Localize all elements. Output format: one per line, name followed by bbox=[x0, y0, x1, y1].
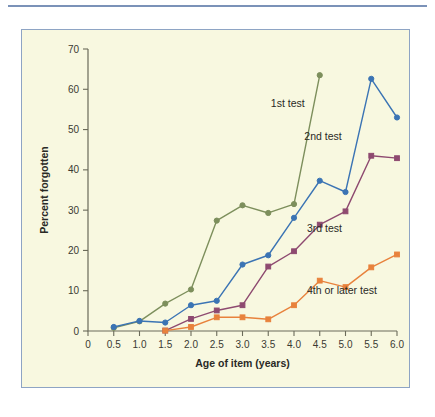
data-point-marker bbox=[214, 218, 219, 223]
data-point-marker bbox=[291, 215, 296, 220]
data-point-marker bbox=[291, 202, 296, 207]
data-point-marker bbox=[240, 315, 245, 320]
x-tick-label: 4.0 bbox=[287, 339, 301, 350]
data-point-marker bbox=[266, 253, 271, 258]
y-axis-title: Percent forgotten bbox=[38, 146, 50, 234]
y-tick-label: 30 bbox=[68, 205, 80, 216]
figure-root: 010203040506070 00.51.01.52.02.53.03.54.… bbox=[0, 0, 435, 417]
data-point-marker bbox=[214, 315, 219, 320]
y-tick-label: 0 bbox=[73, 326, 79, 337]
data-point-marker bbox=[343, 209, 348, 214]
data-point-marker bbox=[395, 252, 400, 257]
x-tick-label: 0 bbox=[85, 339, 91, 350]
x-tick-label: 3.5 bbox=[261, 339, 275, 350]
x-axis-title: Age of item (years) bbox=[195, 357, 290, 369]
data-point-marker bbox=[266, 210, 271, 215]
data-point-marker bbox=[188, 287, 193, 292]
y-tick-label: 40 bbox=[68, 164, 80, 175]
x-tick-label: 1.0 bbox=[133, 339, 147, 350]
data-point-marker bbox=[317, 73, 322, 78]
x-tick-label: 5.5 bbox=[364, 339, 378, 350]
data-point-marker bbox=[369, 153, 374, 158]
data-point-marker bbox=[317, 278, 322, 283]
data-point-marker bbox=[214, 308, 219, 313]
x-tick-label: 6.0 bbox=[390, 339, 404, 350]
x-tick-label: 3.0 bbox=[236, 339, 250, 350]
data-point-marker bbox=[292, 303, 297, 308]
data-point-marker bbox=[395, 156, 400, 161]
x-tick-label: 2.0 bbox=[184, 339, 198, 350]
data-point-marker bbox=[317, 178, 322, 183]
y-tick-label: 50 bbox=[68, 124, 80, 135]
y-tick-label: 20 bbox=[68, 245, 80, 256]
data-point-marker bbox=[266, 264, 271, 269]
y-tick-label: 10 bbox=[68, 285, 80, 296]
y-axis-ticks: 010203040506070 bbox=[68, 44, 88, 337]
series-line bbox=[114, 75, 320, 328]
x-tick-label: 2.5 bbox=[210, 339, 224, 350]
data-point-marker bbox=[111, 324, 116, 329]
data-point-marker bbox=[240, 203, 245, 208]
data-point-marker bbox=[343, 189, 348, 194]
data-point-marker bbox=[189, 325, 194, 330]
x-tick-label: 4.5 bbox=[313, 339, 327, 350]
data-point-marker bbox=[266, 317, 271, 322]
line-chart: 010203040506070 00.51.01.52.02.53.03.54.… bbox=[22, 30, 411, 389]
data-point-marker bbox=[188, 303, 193, 308]
series-label: 2nd test bbox=[304, 130, 341, 142]
top-divider-rule bbox=[8, 5, 427, 7]
x-tick-label: 1.5 bbox=[158, 339, 172, 350]
data-point-marker bbox=[163, 328, 168, 333]
y-tick-label: 60 bbox=[68, 84, 80, 95]
y-tick-label: 70 bbox=[68, 44, 80, 55]
data-point-marker bbox=[240, 262, 245, 267]
chart-panel: 010203040506070 00.51.01.52.02.53.03.54.… bbox=[21, 29, 410, 388]
series-label: 1st test bbox=[271, 97, 305, 109]
data-point-marker bbox=[240, 303, 245, 308]
series-label: 4th or later test bbox=[307, 284, 377, 296]
data-point-marker bbox=[394, 115, 399, 120]
x-axis-ticks: 00.51.01.52.02.53.03.54.04.55.05.56.0 bbox=[85, 331, 404, 350]
data-point-marker bbox=[189, 317, 194, 322]
data-point-marker bbox=[214, 298, 219, 303]
data-point-marker bbox=[163, 301, 168, 306]
series-label-group: 1st test2nd test3rd test4th or later tes… bbox=[271, 97, 377, 296]
data-point-marker bbox=[163, 320, 168, 325]
series-label: 3rd test bbox=[307, 222, 342, 234]
x-tick-label: 5.0 bbox=[339, 339, 353, 350]
data-point-marker bbox=[369, 76, 374, 81]
data-point-marker bbox=[292, 249, 297, 254]
data-point-marker bbox=[137, 318, 142, 323]
data-point-marker bbox=[369, 265, 374, 270]
x-tick-label: 0.5 bbox=[107, 339, 121, 350]
